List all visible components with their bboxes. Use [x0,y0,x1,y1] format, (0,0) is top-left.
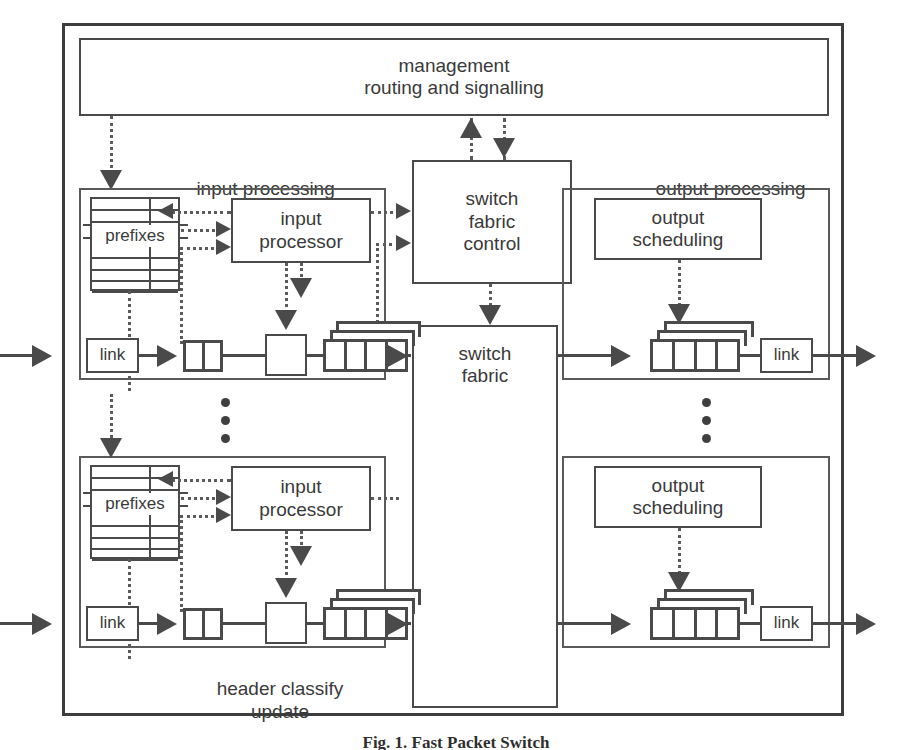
ingress-line-1 [0,354,34,357]
processor-to-queue-arrowhead-1 [290,278,312,298]
prefixes-to-processor-arrowhead-2 [216,489,231,505]
fifo-to-classify-line-2 [223,622,265,625]
fifo-cell [186,343,205,369]
queue-cell [367,610,388,637]
egress-arrow-1 [856,345,876,367]
input-link-block-1[interactable]: link [86,338,139,373]
figure-canvas: management routing and signalling input … [0,0,912,750]
egress-arrow-2 [856,613,876,635]
queue-cell [718,342,737,369]
prefixes-tick-left-2b [83,505,92,507]
processor-to-queue-arrowhead-2 [290,546,312,566]
classify-block-1[interactable] [265,334,307,376]
fabric-to-output-arrowhead-2 [611,613,631,635]
queue-cell [653,610,675,637]
mgmt-to-input1-arrowhead [100,170,122,190]
input-fifo-2[interactable] [183,608,223,640]
prefixes-to-processor-arrowhead-1 [216,221,231,237]
mgmt-to-sfc-arrowhead [493,138,515,158]
processor-to-sfc-arrowhead-1b [396,235,411,251]
outq-to-link-line-1 [740,354,760,357]
header-tap-line-1 [180,247,183,344]
processor-to-prefixes-arrowhead-2 [158,471,173,487]
classify-block-2[interactable] [265,602,307,644]
output-link-block-1[interactable]: link [760,338,813,373]
input-link-label-1: link [100,345,126,365]
header-to-processor-line-1 [180,247,221,250]
queue-cell [326,610,347,637]
input-processor-label-2: input processor [259,476,342,521]
prefixes-tick-left-1 [83,224,92,226]
mgmt-to-input2-line [110,394,113,444]
ellipsis-dot [702,398,711,407]
processor-to-prefixes-line-1 [171,211,231,214]
prefixes-tick-right-1 [179,224,188,226]
sfc-to-mgmt-arrowhead [460,118,482,138]
egress-line-2 [813,622,860,625]
queue-cell [653,342,675,369]
outq-to-fabric-arrowhead-1 [388,345,408,367]
sfc-to-fabric-arrowhead [479,305,501,325]
ellipsis-dot [221,398,230,407]
input-processor-block-2[interactable]: input processor [231,466,371,531]
output-scheduling-block-2[interactable]: output scheduling [594,466,762,528]
ellipsis-dot [702,416,711,425]
link-to-queue-arrowhead-1 [157,345,177,367]
management-label: management routing and signalling [364,55,544,100]
ellipsis-dot [221,416,230,425]
prefixes-to-processor-line-2 [181,497,221,500]
prefixes-tick-right-2 [179,492,188,494]
mgmt-to-input2-arrowhead [100,438,122,458]
header-to-processor-arrowhead-2 [216,507,231,523]
processor-to-classify-arrowhead-1 [275,310,297,330]
link-to-queue-line-2 [139,622,159,625]
queue-cell [675,610,697,637]
switch-fabric-block[interactable]: switch fabric [412,325,558,708]
queue-cell [718,610,737,637]
processor-to-prefixes-line-2 [171,479,231,482]
outq-to-fabric-arrowhead-2 [388,613,408,635]
management-block[interactable]: management routing and signalling [79,38,829,116]
switch-fabric-control-label: switch fabric control [463,188,520,255]
input-processor-block-1[interactable]: input processor [231,198,371,263]
mgmt-to-input1-line [110,116,113,174]
output-link-label-2: link [774,613,800,633]
processor-to-prefixes-arrowhead-1 [158,203,173,219]
output-queue-stack-1[interactable] [650,339,740,372]
header-to-processor-line-2 [180,515,221,518]
fabric-to-output-line-1 [558,354,616,357]
prefixes-tick-right-2b [179,505,188,507]
prefixes-label-1: prefixes [92,225,178,247]
processor-to-classify-arrowhead-2 [275,578,297,598]
input-link-block-2[interactable]: link [86,606,139,641]
output-rows-ellipsis [702,398,711,452]
input-processor-label-1: input processor [259,208,342,253]
input-fifo-1[interactable] [183,340,223,372]
prefixes-label-2: prefixes [92,493,178,515]
fifo-cell [205,343,221,369]
ingress-arrow-2 [32,613,52,635]
queue-cell [697,342,719,369]
link-to-queue-arrowhead-2 [157,613,177,635]
fabric-to-output-line-2 [558,622,616,625]
input-link-label-2: link [100,613,126,633]
output-link-block-2[interactable]: link [760,606,813,641]
queue-cell [347,610,368,637]
queue-cell [326,342,347,369]
ingress-line-2 [0,622,34,625]
ellipsis-dot [702,434,711,443]
switch-fabric-control-block[interactable]: switch fabric control [412,160,572,284]
prefixes-tick-right-1b [179,237,188,239]
fifo-cell [205,611,221,637]
header-to-processor-arrowhead-1 [216,239,231,255]
output-queue-stack-2[interactable] [650,607,740,640]
queue-cell [697,610,719,637]
queue-cell [347,342,368,369]
prefixes-tick-left-2 [83,492,92,494]
output-scheduling-label-2: output scheduling [633,475,724,520]
queue-cell [675,342,697,369]
output-scheduling-block-1[interactable]: output scheduling [594,198,762,260]
egress-line-1 [813,354,860,357]
prefixes-tick-left-1b [83,237,92,239]
fabric-to-output-arrowhead-1 [611,345,631,367]
